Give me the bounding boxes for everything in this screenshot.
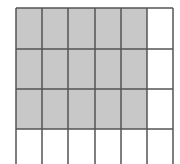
shaded-cell bbox=[16, 49, 42, 89]
shaded-cell bbox=[16, 89, 42, 129]
shaded-cell bbox=[121, 8, 147, 49]
shaded-cell bbox=[42, 49, 68, 89]
shaded-cell bbox=[68, 49, 95, 89]
shaded-cell bbox=[95, 89, 121, 129]
shaded-cell bbox=[42, 8, 68, 49]
shaded-cell bbox=[121, 49, 147, 89]
shaded-cell bbox=[16, 8, 42, 49]
shaded-cell bbox=[68, 89, 95, 129]
shaded-cell bbox=[95, 49, 121, 89]
shaded-cell bbox=[95, 8, 121, 49]
shaded-cell bbox=[42, 89, 68, 129]
shaded-grid-diagram bbox=[0, 0, 180, 164]
shaded-cell bbox=[68, 8, 95, 49]
shaded-cell bbox=[121, 89, 147, 129]
